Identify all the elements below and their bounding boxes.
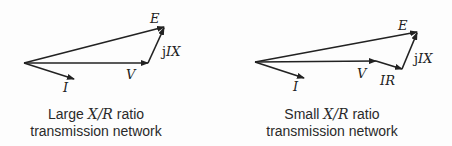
- phasor-diagram-figure: E V I jIX E V IR I jIX Large X/R ratio t…: [0, 0, 452, 146]
- label-jIX: jIX: [160, 44, 181, 59]
- ratio-symbol: X/R: [88, 106, 113, 122]
- vector-IR: [376, 61, 402, 69]
- small-xr-phasor-diagram: E V IR I jIX: [255, 18, 433, 94]
- caption-line-2: transmission network: [6, 123, 186, 140]
- vector-I: [24, 63, 74, 79]
- large-xr-phasor-diagram: E V I jIX: [24, 11, 181, 95]
- label-V: V: [357, 66, 368, 81]
- label-I: I: [292, 79, 299, 94]
- vector-E: [24, 27, 164, 63]
- caption-line-1: Small X/R ratio: [242, 106, 422, 123]
- ratio-symbol: X/R: [323, 106, 348, 122]
- label-jIX: jIX: [412, 51, 433, 66]
- label-IR: IR: [379, 73, 395, 88]
- caption-large-xr: Large X/R ratio transmission network: [6, 106, 186, 140]
- label-E: E: [149, 11, 160, 26]
- vector-E: [255, 32, 417, 62]
- label-E: E: [397, 18, 408, 33]
- label-I: I: [62, 80, 69, 95]
- caption-line-2: transmission network: [242, 123, 422, 140]
- caption-line-1: Large X/R ratio: [6, 106, 186, 123]
- label-V: V: [126, 67, 137, 82]
- vector-I: [255, 62, 304, 78]
- caption-small-xr: Small X/R ratio transmission network: [242, 106, 422, 140]
- vector-V: [255, 61, 376, 62]
